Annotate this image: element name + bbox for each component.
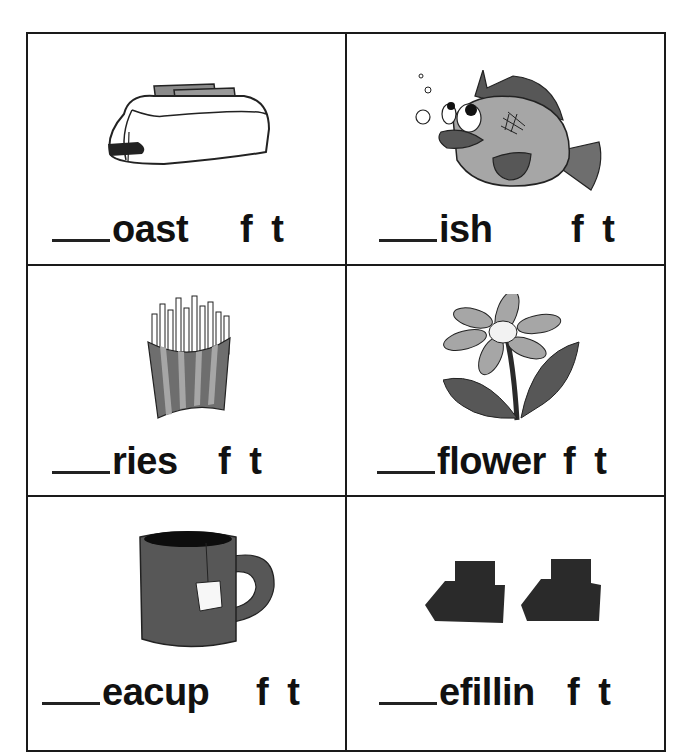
toaster-icon — [104, 74, 274, 174]
tooth-fillings-icon — [425, 557, 605, 627]
answer-blank[interactable] — [42, 672, 100, 705]
word-prompt: ries — [52, 440, 178, 483]
word-prompt: oast — [52, 208, 188, 251]
fries-picture — [28, 266, 344, 441]
letter-options: f t — [256, 671, 300, 714]
answer-blank[interactable] — [379, 209, 437, 242]
toaster-picture — [28, 34, 344, 209]
worksheet-cell-teacup: eacup f t — [28, 497, 344, 727]
worksheet-cell-fillings: efillin f t — [347, 497, 663, 727]
fish-icon — [413, 70, 613, 205]
letter-options: f t — [218, 440, 262, 483]
worksheet-grid: oast f t ish f t — [26, 32, 666, 752]
teacup-picture — [28, 497, 344, 672]
flower-picture — [347, 266, 663, 441]
worksheet-cell-flower: flower f t — [347, 266, 663, 496]
answer-blank[interactable] — [377, 441, 435, 474]
letter-options: f t — [563, 440, 607, 483]
letter-options: f t — [240, 208, 284, 251]
french-fries-icon — [146, 294, 236, 424]
letter-options: f t — [567, 671, 611, 714]
worksheet-cell-toast: oast f t — [28, 34, 344, 264]
fillings-picture — [347, 497, 663, 672]
word-prompt: efillin — [379, 671, 535, 714]
teacup-icon — [136, 527, 276, 652]
answer-blank[interactable] — [52, 441, 110, 474]
fish-picture — [347, 34, 663, 209]
word-prompt: eacup — [42, 671, 209, 714]
worksheet-cell-fish: ish f t — [347, 34, 663, 264]
answer-blank[interactable] — [52, 209, 110, 242]
letter-options: f t — [571, 208, 615, 251]
answer-blank[interactable] — [379, 672, 437, 705]
flower-icon — [443, 294, 593, 424]
word-prompt: flower — [377, 440, 546, 483]
worksheet-cell-fries: ries f t — [28, 266, 344, 496]
word-prompt: ish — [379, 208, 492, 251]
